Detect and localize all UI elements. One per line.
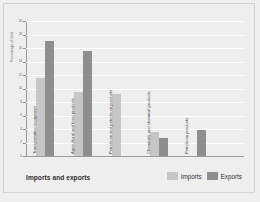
y-axis-tick-labels: 20 18 16 14 12 10 8 6 4 2 0 — [4, 4, 22, 194]
gridline-8 — [26, 102, 244, 103]
chart-legend: Imports Exports — [167, 172, 242, 180]
category-label-transportation-equipment: Transportation equipment — [33, 106, 37, 154]
legend-item-exports[interactable]: Exports — [207, 172, 242, 180]
legend-label-exports: Exports — [221, 173, 242, 180]
plot-area: Transportation equipment Agricultural an… — [26, 21, 244, 156]
y-tick-20: 20 — [19, 20, 22, 23]
category-label-petroleum-and-petroleum-products: Petroleum and petroleum products — [109, 90, 113, 154]
bar-group-petroleum-products: Petroleum products — [188, 21, 207, 156]
bar-exports-chemicals-and-chemical-products[interactable] — [159, 138, 168, 156]
gridline-16 — [26, 48, 244, 49]
legend-item-imports[interactable]: Imports — [167, 172, 202, 180]
chart-title: Imports and exports — [26, 174, 90, 181]
gridline-14 — [26, 62, 244, 63]
gridline-4 — [26, 129, 244, 130]
x-axis-line — [26, 156, 244, 157]
gridline-6 — [26, 116, 244, 117]
y-tick-2: 2 — [20, 141, 22, 144]
bar-group-petroleum-and-petroleum-products: Petroleum and petroleum products — [112, 21, 131, 156]
legend-label-imports: Imports — [181, 173, 202, 180]
y-tick-18: 18 — [19, 33, 22, 36]
y-tick-12: 12 — [19, 74, 22, 77]
legend-swatch-exports — [207, 172, 218, 180]
bar-group-agricultural-and-food-products: Agricultural and food products — [74, 21, 93, 156]
category-label-agricultural-and-food-products: Agricultural and food products — [71, 98, 75, 154]
y-tick-6: 6 — [20, 114, 22, 117]
y-tick-0: 0 — [20, 155, 22, 158]
bar-exports-petroleum-products[interactable] — [197, 130, 206, 156]
gridline-20 — [26, 21, 244, 22]
bar-exports-agricultural-and-food-products[interactable] — [83, 51, 92, 156]
bar-group-chemicals-and-chemical-products: Chemicals and chemical products — [150, 21, 169, 156]
chart-panel: Percentage of total 20 18 16 14 12 10 8 … — [3, 3, 255, 193]
bar-imports-agricultural-and-food-products[interactable] — [74, 92, 83, 156]
bar-imports-chemicals-and-chemical-products[interactable] — [150, 132, 159, 156]
y-tick-8: 8 — [20, 101, 22, 104]
y-tick-16: 16 — [19, 47, 22, 50]
category-label-petroleum-products: Petroleum products — [185, 118, 189, 154]
gridline-10 — [26, 89, 244, 90]
gridline-2 — [26, 143, 244, 144]
y-tick-14: 14 — [19, 60, 22, 63]
bar-exports-transportation-equipment[interactable] — [45, 41, 54, 156]
bar-imports-transportation-equipment[interactable] — [36, 78, 45, 156]
gridline-18 — [26, 35, 244, 36]
bar-group-transportation-equipment: Transportation equipment — [36, 21, 55, 156]
legend-swatch-imports — [167, 172, 178, 180]
category-label-chemicals-and-chemical-products: Chemicals and chemical products — [147, 91, 151, 154]
y-tick-4: 4 — [20, 128, 22, 131]
y-tick-10: 10 — [19, 87, 22, 90]
bar-imports-petroleum-and-petroleum-products[interactable] — [112, 94, 121, 156]
gridline-12 — [26, 75, 244, 76]
